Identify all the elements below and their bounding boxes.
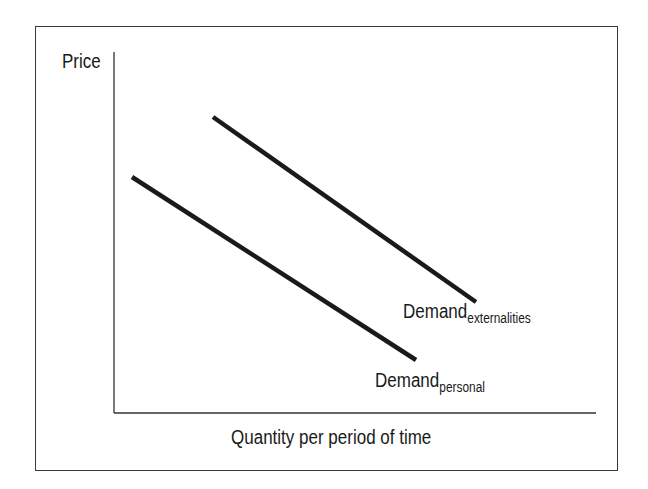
label-subscript: externalities xyxy=(467,310,530,326)
label-subscript: personal xyxy=(439,379,485,395)
label-main: Demand xyxy=(375,369,439,391)
label-main: Demand xyxy=(403,300,467,322)
demand-externalities-label: Demandexternalities xyxy=(403,301,531,325)
demand-externalities-line xyxy=(213,117,476,302)
x-axis-label: Quantity per period of time xyxy=(231,427,431,447)
y-axis-label: Price xyxy=(62,51,101,71)
demand-personal-label: Demandpersonal xyxy=(375,370,485,394)
demand-personal-line xyxy=(132,177,416,360)
chart-plot xyxy=(0,0,648,489)
